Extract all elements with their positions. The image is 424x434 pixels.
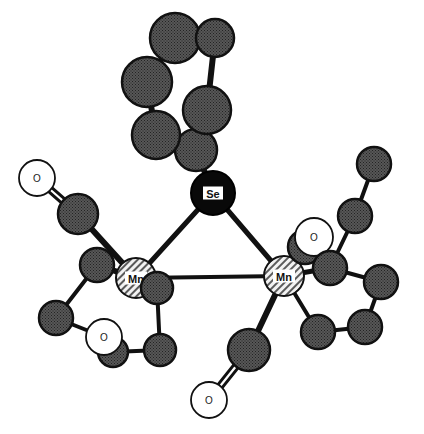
atom-lc5-c	[144, 334, 176, 366]
atom-sphere-c	[150, 13, 200, 63]
atom-ar3-c	[183, 86, 231, 134]
atom-sphere-c	[357, 147, 391, 181]
atom-lc6-c	[141, 272, 173, 304]
atom-rc2-c	[313, 251, 347, 285]
atom-label-o: O	[100, 332, 108, 343]
atom-rc6-c	[348, 310, 382, 344]
atom-ar4-c	[122, 57, 172, 107]
atom-label-mn: Mn	[276, 271, 292, 283]
atom-sphere-c	[132, 111, 180, 159]
atom-sphere-c	[175, 129, 217, 171]
atom-sphere-c	[228, 329, 270, 371]
atom-lo1-o: O	[19, 160, 55, 196]
atom-rc3-c	[338, 199, 372, 233]
atom-sphere-c	[122, 57, 172, 107]
atom-sphere-c	[183, 86, 231, 134]
atom-ar1-c	[175, 129, 217, 171]
atom-ar6-c	[196, 19, 234, 57]
atom-rc5-c	[364, 265, 398, 299]
atom-label-o: O	[310, 232, 318, 243]
atom-rc4-c	[357, 147, 391, 181]
atom-label-o: O	[205, 395, 213, 406]
atom-sphere-c	[141, 272, 173, 304]
atom-lc2-c	[80, 248, 114, 282]
atom-label-o: O	[33, 173, 41, 184]
atom-lc3-c	[39, 301, 73, 335]
atom-sphere-c	[58, 194, 98, 234]
atom-sphere-c	[39, 301, 73, 335]
atom-sphere-c	[313, 251, 347, 285]
molecular-structure-figure: SeMnMnOOOO	[0, 0, 424, 434]
atom-lc1-c	[58, 194, 98, 234]
atom-ar5-c	[150, 13, 200, 63]
atom-sphere-c	[80, 248, 114, 282]
atom-sphere-c	[144, 334, 176, 366]
atom-sphere-c	[196, 19, 234, 57]
molecule-canvas: SeMnMnOOOO	[0, 0, 424, 434]
atom-sphere-c	[348, 310, 382, 344]
atom-se1-se: Se	[191, 171, 235, 215]
atom-sphere-c	[338, 199, 372, 233]
atom-sphere-c	[364, 265, 398, 299]
atom-label-se: Se	[206, 188, 219, 200]
atom-rc7-c	[301, 315, 335, 349]
atom-bc1-c	[228, 329, 270, 371]
atom-ar2-c	[132, 111, 180, 159]
atom-sphere-c	[301, 315, 335, 349]
atom-lo2-o: O	[86, 319, 122, 355]
atom-bo1-o: O	[191, 382, 227, 418]
